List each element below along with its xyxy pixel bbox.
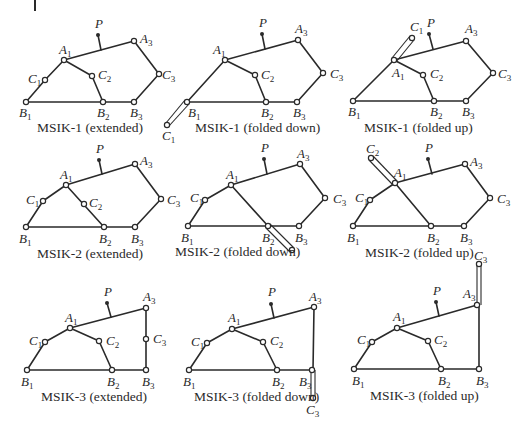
svg-text:P: P (424, 140, 433, 155)
svg-text:C3: C3 (167, 192, 181, 209)
svg-text:C1: C1 (162, 128, 175, 145)
svg-text:A3: A3 (462, 286, 476, 303)
panel-msik2-folded-down: P A1 A3 C1 C3 B1 B2 B3 MSIK-2 (folded do… (175, 140, 347, 259)
svg-text:C1: C1 (26, 192, 39, 209)
panel-msik3-folded-down: P A1 A3 C1 C2 B1 B2 B3 C3 MSIK-3 (folded… (183, 284, 322, 419)
svg-text:A3: A3 (142, 289, 156, 306)
svg-text:A3: A3 (139, 31, 153, 48)
svg-text:A3: A3 (294, 21, 308, 38)
caption-msik1-extended: MSIK-1 (extended) (37, 120, 143, 135)
svg-text:P: P (103, 284, 112, 299)
svg-text:P: P (432, 283, 441, 298)
svg-text:A3: A3 (139, 153, 153, 170)
svg-text:C3: C3 (474, 248, 488, 265)
svg-text:C3: C3 (333, 191, 347, 208)
svg-text:A3: A3 (464, 21, 478, 38)
svg-text:C1: C1 (410, 19, 423, 36)
svg-text:C3: C3 (498, 66, 512, 83)
svg-text:A1: A1 (391, 65, 404, 82)
svg-text:B1: B1 (347, 230, 359, 247)
svg-text:C2: C2 (89, 195, 102, 212)
svg-text:B1: B1 (21, 374, 33, 391)
caption-msik2-extended: MSIK-2 (extended) (37, 246, 143, 261)
svg-text:P: P (267, 284, 276, 299)
svg-text:P: P (260, 140, 269, 155)
svg-text:C3: C3 (153, 331, 167, 348)
svg-text:C2: C2 (261, 67, 274, 84)
svg-text:A3: A3 (296, 146, 310, 163)
svg-text:A1: A1 (59, 167, 72, 184)
panel-msik1-extended: P A1 A3 C1 C2 C3 B1 B2 B3 MSIK-1 (extend… (19, 16, 176, 135)
svg-text:C1: C1 (29, 333, 42, 350)
svg-text:C3: C3 (162, 67, 176, 84)
svg-text:B1: B1 (352, 373, 364, 390)
panel-msik3-folded-up: C3 P A3 A1 C1 C2 B1 B2 B3 MSIK-3 (folded… (351, 248, 489, 403)
svg-text:C3: C3 (330, 66, 344, 83)
svg-text:C1: C1 (355, 190, 368, 207)
svg-text:P: P (94, 16, 103, 31)
svg-text:C2: C2 (270, 333, 283, 350)
svg-text:A1: A1 (225, 167, 238, 184)
svg-text:C1: C1 (190, 190, 203, 207)
svg-text:C2: C2 (366, 141, 379, 158)
svg-text:C1: C1 (191, 334, 204, 351)
svg-text:C2: C2 (98, 67, 111, 84)
svg-text:A1: A1 (212, 42, 225, 59)
svg-text:A1: A1 (227, 310, 240, 327)
svg-text:B2: B2 (430, 104, 442, 121)
panel-msik3-extended: P A1 A3 C1 C2 C3 B1 B2 B3 MSIK-3 (extend… (21, 284, 167, 404)
caption-msik1-folded-down: MSIK-1 (folded down) (195, 120, 320, 135)
svg-text:P: P (258, 15, 267, 30)
svg-text:C3: C3 (497, 191, 511, 208)
svg-text:B1: B1 (19, 105, 31, 122)
svg-text:A3: A3 (469, 154, 483, 171)
caption-msik1-folded-up: MSIK-1 (folded up) (364, 120, 473, 135)
svg-text:C2: C2 (434, 332, 447, 349)
svg-text:A1: A1 (58, 42, 71, 59)
svg-text:C1: C1 (28, 71, 41, 88)
svg-text:C3: C3 (306, 402, 320, 419)
caption-msik2-folded-up: MSIK-2 (folded up) (365, 245, 474, 260)
svg-text:C2: C2 (430, 66, 443, 83)
mechanism-diagram: P A1 A3 C1 C2 C3 B1 B2 B3 MSIK-1 (extend… (0, 0, 529, 433)
svg-text:A1: A1 (393, 165, 406, 182)
svg-text:P: P (95, 141, 104, 156)
svg-text:B1: B1 (348, 104, 360, 121)
svg-text:A1: A1 (64, 310, 77, 327)
svg-text:C2: C2 (106, 333, 119, 350)
panel-msik1-folded-down: P A1 A3 C2 C3 C1 B1 B2 B3 MSIK-1 (folded… (162, 15, 344, 145)
svg-text:B1: B1 (19, 231, 31, 248)
panel-msik1-folded-up: P C1 A1 A3 C2 C3 B1 B2 B3 MSIK-1 (folded… (348, 15, 512, 135)
svg-text:C1: C1 (357, 332, 370, 349)
caption-msik3-extended: MSIK-3 (extended) (41, 389, 147, 404)
panel-msik2-extended: P A1 A3 C1 C2 C3 B1 B2 B3 MSIK-2 (extend… (19, 141, 181, 261)
svg-text:A3: A3 (308, 289, 322, 306)
caption-msik3-folded-up: MSIK-3 (folded up) (370, 388, 479, 403)
panel-msik2-folded-up: P C2 A1 A3 C1 C3 B1 B2 B3 MSIK-2 (folded… (347, 140, 511, 260)
svg-text:P: P (426, 15, 435, 30)
caption-msik2-folded-down: MSIK-2 (folded down) (175, 244, 300, 259)
svg-text:A1: A1 (392, 309, 405, 326)
caption-msik3-folded-down: MSIK-3 (folded down) (194, 389, 319, 404)
svg-text:B3: B3 (462, 104, 475, 121)
